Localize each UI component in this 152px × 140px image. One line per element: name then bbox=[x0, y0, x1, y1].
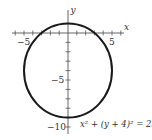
equation-label: x² + (y + 4)² = 25 bbox=[80, 119, 152, 129]
x-tick-label-neg5: −5 bbox=[17, 37, 31, 47]
y-tick-label-neg5: −5 bbox=[51, 75, 65, 85]
x-axis-label: x bbox=[124, 22, 129, 32]
y-axis-label: y bbox=[70, 5, 77, 15]
y-tick-label-neg10: −10 bbox=[47, 122, 66, 132]
x-tick-label-5: 5 bbox=[109, 37, 115, 47]
circle-graph: y x −5 5 −5 −10 x² + (y + 4)² = 25 bbox=[0, 0, 152, 140]
